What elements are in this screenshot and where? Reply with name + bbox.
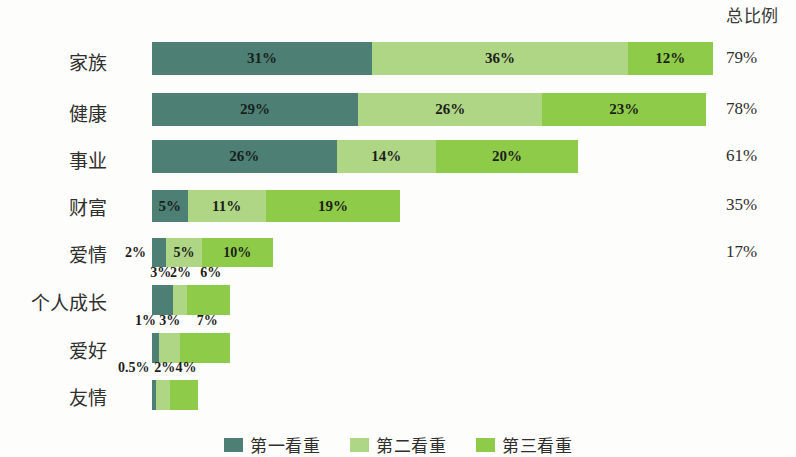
- bar-segment-third[interactable]: [170, 380, 198, 410]
- bar-segment-first[interactable]: [152, 333, 159, 363]
- row-category-label: 财富: [0, 193, 107, 220]
- segment-value-label: 31%: [247, 51, 277, 66]
- bar-segment-third[interactable]: 20%: [436, 140, 578, 173]
- segment-value-label: 19%: [318, 199, 348, 214]
- stacked-bar[interactable]: [152, 238, 273, 267]
- row-category-label: 家族: [0, 48, 107, 75]
- bar-segment-second[interactable]: 14%: [337, 140, 436, 173]
- bar-segment-second[interactable]: [173, 285, 187, 315]
- legend-item[interactable]: 第三看重: [476, 432, 572, 457]
- bar-segment-first[interactable]: 26%: [152, 140, 337, 173]
- bar-segment-third[interactable]: 19%: [266, 190, 401, 222]
- stacked-bar[interactable]: 5%11%19%: [152, 190, 401, 222]
- bar-segment-first[interactable]: 29%: [152, 93, 358, 126]
- stacked-bar[interactable]: [152, 333, 230, 363]
- stacked-bar[interactable]: 31%36%12%: [152, 42, 713, 75]
- bar-segment-first[interactable]: 31%: [152, 42, 372, 75]
- segment-value-label: 5%: [173, 246, 194, 260]
- legend-label: 第三看重: [502, 432, 572, 457]
- segment-value-label: 29%: [240, 102, 270, 117]
- stacked-bar[interactable]: 26%14%20%: [152, 140, 578, 173]
- segment-value-label: 14%: [371, 149, 401, 164]
- row-category-label: 健康: [0, 99, 107, 126]
- row-category-label: 爱好: [0, 336, 107, 363]
- bar-segment-first[interactable]: [152, 285, 173, 315]
- stacked-bar[interactable]: [152, 285, 230, 315]
- bar-segment-third[interactable]: 12%: [628, 42, 713, 75]
- segment-value-label: 12%: [655, 51, 685, 66]
- legend-item[interactable]: 第一看重: [224, 432, 320, 457]
- row-category-label: 友情: [0, 383, 107, 410]
- segment-value-label: 10%: [223, 246, 251, 260]
- segment-value-label: 4%: [175, 361, 196, 375]
- segment-value-label: 23%: [609, 102, 639, 117]
- bar-segment-second[interactable]: 36%: [372, 42, 628, 75]
- stacked-bar-chart: 总比例 家族31%36%12%79%健康29%26%23%78%事业26%14%…: [0, 0, 796, 457]
- bar-segment-second[interactable]: [159, 333, 180, 363]
- stacked-bar[interactable]: 29%26%23%: [152, 93, 706, 126]
- chart-legend: 第一看重第二看重第三看重: [0, 432, 796, 457]
- legend-label: 第一看重: [250, 432, 320, 457]
- segment-value-label: 2%: [170, 266, 191, 280]
- bar-segment-second[interactable]: [156, 380, 170, 410]
- row-category-label: 爱情: [0, 240, 107, 267]
- bar-segment-second[interactable]: 11%: [188, 190, 266, 222]
- stacked-bar[interactable]: [152, 380, 198, 410]
- row-total-value: 35%: [726, 195, 790, 215]
- bar-segment-first[interactable]: 5%: [152, 190, 188, 222]
- bar-segment-third[interactable]: [187, 285, 230, 315]
- row-total-value: 17%: [726, 242, 790, 262]
- segment-value-label: 5%: [159, 199, 182, 214]
- segment-value-label: 3%: [159, 314, 180, 328]
- segment-value-label: 2%: [154, 361, 175, 375]
- row-category-label: 个人成长: [0, 288, 107, 315]
- legend-swatch-icon: [476, 438, 495, 452]
- segment-value-label: 3%: [150, 266, 171, 280]
- bar-segment-second[interactable]: 26%: [358, 93, 543, 126]
- segment-value-label: 2%: [100, 246, 146, 260]
- segment-value-label: 1%: [135, 314, 156, 328]
- segment-value-label: 11%: [212, 199, 241, 214]
- segment-value-label: 20%: [492, 149, 522, 164]
- legend-label: 第二看重: [376, 432, 446, 457]
- segment-value-label: 26%: [229, 149, 259, 164]
- segment-value-label: 0.5%: [118, 361, 150, 375]
- bar-segment-first[interactable]: [152, 238, 166, 267]
- row-total-value: 78%: [726, 99, 790, 119]
- row-total-value: 79%: [726, 48, 790, 68]
- legend-item[interactable]: 第二看重: [350, 432, 446, 457]
- bar-segment-third[interactable]: 23%: [542, 93, 705, 126]
- row-total-value: 61%: [726, 146, 790, 166]
- row-category-label: 事业: [0, 146, 107, 173]
- segment-value-label: 26%: [435, 102, 465, 117]
- legend-swatch-icon: [224, 438, 243, 452]
- plot-area: 家族31%36%12%79%健康29%26%23%78%事业26%14%20%6…: [0, 0, 796, 425]
- segment-value-label: 6%: [200, 266, 221, 280]
- segment-value-label: 36%: [485, 51, 515, 66]
- bar-segment-third[interactable]: [180, 333, 230, 363]
- legend-swatch-icon: [350, 438, 369, 452]
- segment-value-label: 7%: [197, 314, 218, 328]
